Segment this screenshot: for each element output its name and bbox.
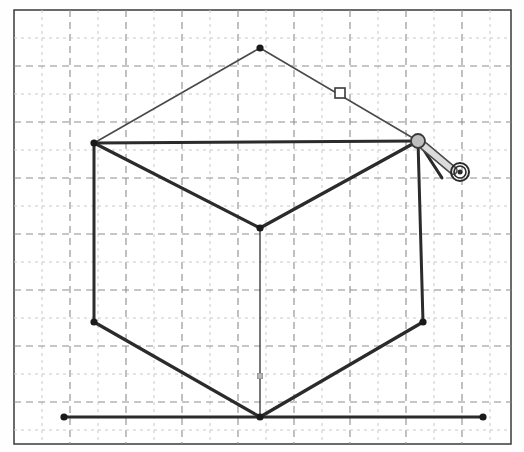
- vertex-apex[interactable]: [256, 44, 263, 51]
- vertical-edge-marker[interactable]: [258, 374, 263, 379]
- vertex-bottom-right[interactable]: [419, 318, 426, 325]
- vertex-bottom-left[interactable]: [90, 318, 97, 325]
- edge-midpoint-handle[interactable]: [335, 88, 345, 98]
- vertex-base-left[interactable]: [60, 413, 67, 420]
- cube-edge-left-right[interactable]: [94, 141, 418, 143]
- sketch-application: [0, 0, 524, 452]
- cursor-pivot-knob[interactable]: [411, 134, 425, 148]
- vertex-left[interactable]: [90, 139, 97, 146]
- vertex-base-right[interactable]: [479, 413, 486, 420]
- cursor-target-icon: [451, 163, 469, 181]
- vertex-bottom-center[interactable]: [256, 413, 263, 420]
- drawing-canvas[interactable]: [0, 0, 524, 452]
- vertex-center[interactable]: [256, 224, 263, 231]
